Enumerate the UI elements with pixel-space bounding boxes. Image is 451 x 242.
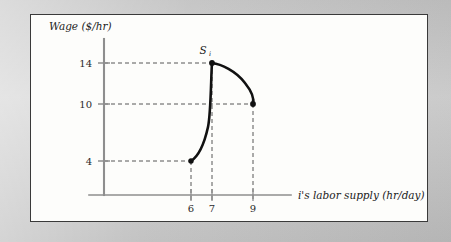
x-axis-title: i's labor supply (hr/day) [298, 189, 425, 201]
ytick-label-10: 10 [79, 99, 92, 110]
xtick-label-9: 9 [250, 203, 256, 214]
data-point-7-14 [209, 60, 215, 66]
y-axis-title: Wage ($/hr) [49, 20, 112, 32]
chart-panel: 14 10 4 6 7 9 Wage ($/hr) i's labor supp… [30, 14, 428, 222]
figure-root: 14 10 4 6 7 9 Wage ($/hr) i's labor supp… [0, 0, 451, 242]
labor-supply-chart: 14 10 4 6 7 9 Wage ($/hr) i's labor supp… [31, 15, 427, 221]
supply-curve-si [191, 63, 253, 161]
curve-label-s: S [199, 44, 206, 56]
ytick-label-14: 14 [79, 58, 92, 69]
xtick-label-6: 6 [188, 203, 194, 214]
xtick-label-7: 7 [209, 203, 215, 214]
data-point-9-10 [250, 101, 256, 107]
ytick-label-4: 4 [86, 156, 92, 167]
data-point-6-4 [188, 158, 193, 163]
curve-label-subscript-i: i [209, 50, 211, 58]
